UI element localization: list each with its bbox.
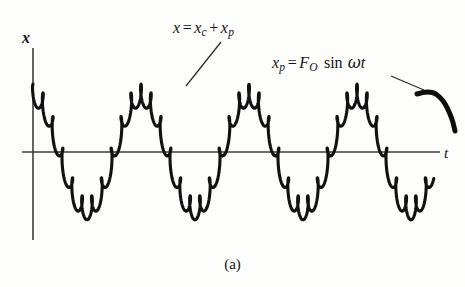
particular-amplitude-base: F [299,54,309,71]
total-response-label: x=xc+xp [173,20,234,39]
figure-caption: (a) [0,256,465,273]
total-term2-sub: p [228,26,234,38]
particular-time-variable: t [361,54,365,71]
figure-container: x t x=xc+xp xp=FOsinωt (a) [0,0,465,287]
total-term1-sub: c [201,26,206,38]
y-axis-label: x [22,30,30,46]
particular-arc-group [417,92,455,131]
particular-equals: = [285,54,299,71]
waveform-plot [0,0,465,287]
omega-symbol: ω [343,53,361,72]
total-plus: + [207,19,221,36]
particular-sin-function: sin [318,54,343,71]
leader-line-particular [391,76,424,90]
leader-line-total-response [186,42,221,86]
total-equals: = [180,19,194,36]
x-axis-label: t [444,146,448,161]
particular-amplitude-sub: O [309,61,318,73]
particular-solution-label: xp=FOsinωt [272,55,365,74]
total-term2-base: x [221,19,228,36]
particular-solution-arc [417,92,455,131]
